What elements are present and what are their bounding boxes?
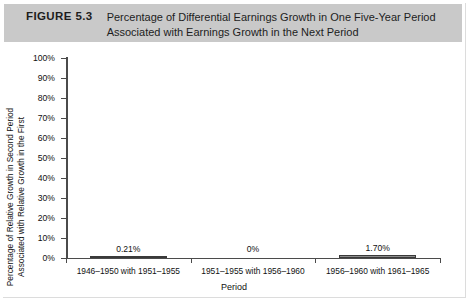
bar-fill	[339, 255, 416, 258]
y-axis-tick	[61, 58, 66, 59]
y-axis-tick-label: 10%	[23, 234, 58, 242]
y-axis-tick	[61, 78, 66, 79]
chart-area: Percentage of Relative Growth in Second …	[0, 44, 468, 300]
y-axis-tick-label: 90%	[23, 74, 58, 82]
y-axis-tick-label: 0%	[23, 254, 58, 262]
x-axis-category-label: 1951–1955 with 1956–1960	[183, 266, 323, 276]
figure-header-content: FIGURE 5.3 Percentage of Differential Ea…	[26, 10, 456, 39]
x-axis-category-label: 1956–1960 with 1961–1965	[308, 266, 448, 276]
bar-value-label: 0.21%	[88, 244, 168, 254]
bar-fill	[90, 256, 167, 259]
y-axis-tick-label: 40%	[23, 174, 58, 182]
y-axis-tick	[61, 158, 66, 159]
y-axis-tick	[61, 218, 66, 219]
y-axis-tick-label: 60%	[23, 134, 58, 142]
y-axis-tick	[61, 198, 66, 199]
plot-canvas: 100%90%80%70%60%50%40%30%20%10%0%0.21%19…	[0, 44, 468, 300]
x-axis-tick	[440, 258, 441, 263]
x-axis-title: Period	[0, 282, 468, 292]
y-axis-tick	[61, 238, 66, 239]
x-axis-tick	[191, 258, 192, 263]
y-axis-tick	[61, 98, 66, 99]
figure-caption-line-2: Associated with Earnings Growth in the N…	[107, 25, 436, 40]
y-axis-tick	[61, 178, 66, 179]
y-axis-tick-label: 30%	[23, 194, 58, 202]
figure-caption-line-1: Percentage of Differential Earnings Grow…	[107, 10, 436, 25]
x-axis-category-label: 1946–1950 with 1951–1955	[58, 266, 198, 276]
y-axis-tick-label: 50%	[23, 154, 58, 162]
x-axis-tick	[315, 258, 316, 263]
y-axis-tick-label: 100%	[23, 54, 58, 62]
y-axis-tick	[61, 138, 66, 139]
bar-value-label: 1.70%	[338, 243, 418, 253]
y-axis-tick-label: 20%	[23, 214, 58, 222]
y-axis-line	[66, 57, 68, 259]
figure-caption: Percentage of Differential Earnings Grow…	[107, 10, 436, 39]
y-axis-tick	[61, 118, 66, 119]
y-axis-tick-label: 70%	[23, 114, 58, 122]
bar-value-label: 0%	[213, 244, 293, 254]
figure-header-band: FIGURE 5.3 Percentage of Differential Ea…	[4, 4, 462, 42]
x-axis-tick	[66, 258, 67, 263]
bar	[90, 256, 167, 259]
bar	[339, 255, 416, 258]
y-axis-tick-label: 80%	[23, 94, 58, 102]
figure-number: FIGURE 5.3	[26, 10, 93, 22]
figure-root: FIGURE 5.3 Percentage of Differential Ea…	[0, 0, 468, 300]
